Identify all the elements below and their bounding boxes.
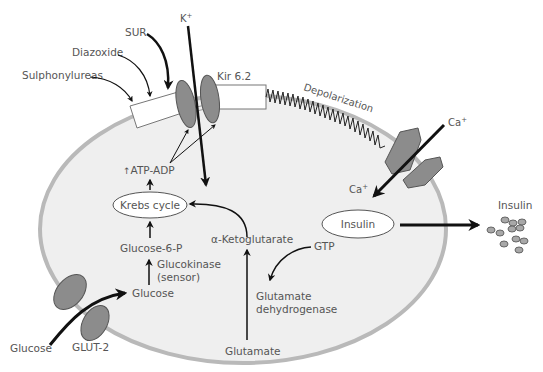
diazoxide-label: Diazoxide (72, 46, 123, 58)
gdh-label-line1: Glutamate (256, 290, 312, 302)
alpha-ketoglutarate-label: α-Ketoglutarate (211, 233, 293, 245)
sur-label: SUR (125, 26, 147, 38)
glucose-outside-label: Glucose (10, 342, 52, 354)
kir-channel-box (214, 85, 266, 109)
glucose-6-p-label: Glucose-6-P (120, 242, 182, 254)
atp-adp-label: ↑ATP-ADP (123, 164, 175, 176)
kir-label: Kir 6.2 (217, 70, 251, 82)
k-ion-label: K+ (180, 12, 193, 24)
glucose-inside-label: Glucose (132, 287, 174, 299)
ca-outside-label: Ca+ (448, 116, 467, 128)
insulin-granule-node: Insulin (322, 210, 394, 238)
krebs-cycle-label: Krebs cycle (120, 199, 180, 211)
insulin-granules (487, 217, 528, 253)
insulin-inside-label: Insulin (341, 218, 375, 230)
glutamate-label: Glutamate (225, 345, 281, 357)
beta-cell-diagram: Depolarization Ca+ Ca+ K+ SUR Diazoxide … (0, 0, 543, 372)
gdh-label-line2: dehydrogenase (256, 303, 337, 315)
gtp-label: GTP (314, 240, 335, 252)
glut2-label: GLUT-2 (72, 341, 109, 353)
sur-arrow (147, 34, 168, 88)
sulphonylureas-label: Sulphonylureas (22, 69, 103, 81)
sensor-label: (sensor) (157, 271, 200, 283)
glucokinase-label: Glucokinase (157, 258, 221, 270)
insulin-outside-label: Insulin (498, 199, 532, 211)
krebs-cycle-node: Krebs cycle (113, 192, 187, 218)
